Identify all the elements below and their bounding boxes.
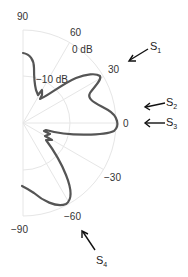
- angle-label-60: 60: [70, 27, 82, 38]
- grid-spoke-m30: [23, 123, 104, 170]
- arrow-s1: [130, 49, 148, 60]
- annotation-s3: S3: [145, 116, 177, 130]
- annotation-label-s2: S2: [166, 96, 177, 110]
- annotation-s2: S2: [145, 96, 177, 110]
- annotation-label-s3: S3: [166, 116, 177, 130]
- radial-label-0db: 0 dB: [72, 44, 93, 55]
- radial-label-10db: −10 dB: [36, 74, 68, 85]
- arrow-s4: [83, 232, 95, 250]
- angle-label-0: 0: [123, 118, 129, 129]
- annotation-s1: S1: [129, 40, 161, 61]
- angle-label-m60: −60: [64, 211, 81, 222]
- angle-label-m30: −30: [104, 172, 121, 183]
- angle-label-m90: −90: [11, 224, 28, 235]
- polar-plot: 90 60 30 0 −30 −60 −90 0 dB −10 dB S1 S2…: [0, 0, 188, 277]
- angle-label-30: 30: [108, 64, 120, 75]
- angle-label-90: 90: [17, 11, 29, 22]
- annotation-label-s4: S4: [96, 254, 107, 268]
- annotation-label-s1: S1: [150, 40, 161, 54]
- annotation-s4: S4: [82, 231, 107, 268]
